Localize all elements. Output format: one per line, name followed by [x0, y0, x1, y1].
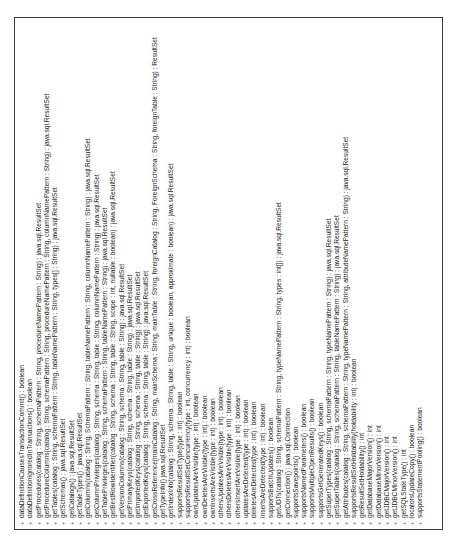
method-row: +updatesAreDetected(type : int) : boolea…: [242, 18, 250, 525]
method-row: +ownUpdatesAreVisible(type : int) : bool…: [192, 18, 200, 525]
method-signature: getCatalogs() : java.sql.ResultSet: [68, 420, 76, 518]
method-signature: supportsStatementPooling() : boolean: [416, 407, 424, 518]
method-signature: locatorsUpdateCopy() : boolean: [408, 425, 416, 518]
public-visibility-icon: +: [18, 518, 26, 525]
method-signature: supportsNamedParameters() : boolean: [300, 404, 308, 518]
method-signature: supportsMultipleOpenResults() : boolean: [308, 399, 316, 518]
method-signature: getResultSetHoldability() : int: [358, 433, 366, 518]
method-row: +getImportedKeys(catalog : String, schem…: [134, 18, 142, 525]
method-row: +getUDTs(catalog : String, schemaPattern…: [275, 18, 283, 525]
public-visibility-icon: +: [317, 518, 325, 525]
method-row: +getSQLStateType() : int: [400, 18, 408, 525]
method-signature: othersUpdatesAreVisible(type : int) : bo…: [217, 387, 225, 518]
public-visibility-icon: +: [292, 518, 300, 525]
method-row: +getJDBCMinorVersion() : int: [391, 18, 399, 525]
method-signature: getImportedKeys(catalog : String, schema…: [134, 271, 142, 518]
method-row: +othersInsertAreVisible(type : int) : bo…: [234, 18, 242, 525]
method-row: +supportsResultSetConcurrency(type : int…: [184, 18, 192, 525]
public-visibility-icon: +: [342, 518, 350, 525]
method-row: +getDatabaseMajorVersion() : int: [366, 18, 374, 525]
public-visibility-icon: +: [142, 518, 150, 525]
public-visibility-icon: +: [416, 518, 424, 525]
public-visibility-icon: +: [400, 518, 408, 525]
public-visibility-icon: +: [192, 518, 200, 525]
method-signature: supportsResultSetConcurrency(type : int,…: [184, 316, 192, 518]
method-signature: getProcedureColumns(catalog : String, sc…: [43, 94, 51, 518]
method-row: +getBestRowIdentifier(catalog : String, …: [109, 18, 117, 525]
method-row: +dataDefinitionCausesTransactionCommit()…: [18, 18, 26, 525]
method-signature: getDatabaseMinorVersion() : int: [375, 425, 383, 518]
method-row: +getSchemas() : java.sql.ResultSet: [59, 18, 67, 525]
public-visibility-icon: +: [209, 518, 217, 525]
public-visibility-icon: +: [43, 518, 51, 525]
method-signature: getJDBCMinorVersion() : int: [391, 436, 399, 518]
method-row: +supportsSavepoints() : boolean: [292, 18, 300, 525]
public-visibility-icon: +: [184, 518, 192, 525]
public-visibility-icon: +: [350, 518, 358, 525]
method-row: +getProcedures(catalog : String, schemaP…: [35, 18, 43, 525]
method-signature: getExportedKeys(catalog : String, schema…: [142, 271, 150, 518]
public-visibility-icon: +: [284, 518, 292, 525]
method-signature: getCrossReference(mainCatalog : String, …: [151, 37, 159, 518]
public-visibility-icon: +: [366, 518, 374, 525]
method-signature: getColumns(catalog : String, SchemaPatte…: [84, 138, 92, 518]
public-visibility-icon: +: [300, 518, 308, 525]
class-method-compartment: +dataDefinitionCausesTransactionCommit()…: [14, 17, 443, 530]
public-visibility-icon: +: [35, 518, 43, 525]
method-row: +getTablePrivileges(catalog : String, sc…: [101, 18, 109, 525]
method-signature: insertsAreDetected(type : int) : boolean: [259, 404, 267, 518]
public-visibility-icon: +: [333, 518, 341, 525]
method-row: +getTableTypes() : java.sql.ResultSet: [76, 18, 84, 525]
method-signature: dataDefinitionIgnoredInTransactions() : …: [26, 379, 34, 518]
public-visibility-icon: +: [93, 518, 101, 525]
method-row: +supportsResultSetHoldability(holdabilit…: [350, 18, 358, 525]
public-visibility-icon: +: [151, 518, 159, 525]
public-visibility-icon: +: [225, 518, 233, 525]
method-row: +insertsAreDetected(type : int) : boolea…: [259, 18, 267, 525]
method-row: +getCrossReference(mainCatalog : String,…: [151, 18, 159, 525]
method-row: +getColumnPrivileges(catalog : String, s…: [93, 18, 101, 525]
method-signature: dataDefinitionCausesTransactionCommit() …: [18, 365, 26, 518]
public-visibility-icon: +: [26, 518, 34, 525]
method-row: +getVersionColumns(catalog : String, sch…: [118, 18, 126, 525]
method-row: +getResultSetHoldability() : int: [358, 18, 366, 525]
method-list: +dataDefinitionCausesTransactionCommit()…: [15, 18, 425, 529]
method-signature: supportsResultSetHoldability(holdability…: [350, 359, 358, 518]
method-signature: getTablePrivileges(catalog : String, sch…: [101, 208, 109, 518]
method-row: +getProcedureColumns(catalog : String, s…: [43, 18, 51, 525]
method-signature: ownInsertsAreVisible(type : int) : boole…: [209, 398, 217, 518]
public-visibility-icon: +: [308, 518, 316, 525]
method-signature: othersDeletesAreVisible(type : int) : bo…: [225, 389, 233, 518]
method-row: +locatorsUpdateCopy() : boolean: [408, 18, 416, 525]
method-signature: getSuperTables(catalog : String, schemaP…: [333, 215, 341, 518]
method-row: +getExportedKeys(catalog : String, schem…: [142, 18, 150, 525]
method-signature: getUDTs(catalog : String, schemaPattern …: [275, 202, 283, 518]
public-visibility-icon: +: [375, 518, 383, 525]
method-signature: deletesAreDetected(type : int) : boolean: [250, 402, 258, 518]
method-signature: ownUpdatesAreVisible(type : int) : boole…: [192, 394, 200, 519]
public-visibility-icon: +: [51, 518, 59, 525]
method-row: +supportsMultipleOpenResults() : boolean: [308, 18, 316, 525]
method-signature: getTypeInfo() java.sql.ResultSet: [159, 425, 167, 518]
public-visibility-icon: +: [126, 518, 134, 525]
method-signature: supportsGetGeneratedKeys() : boolean: [317, 403, 325, 518]
method-signature: getAttributes(catalog : String, schemaPa…: [342, 137, 350, 518]
method-signature: updatesAreDetected(type : int) : boolean: [242, 400, 250, 518]
public-visibility-icon: +: [408, 518, 416, 525]
method-signature: getColumnPrivileges(catalog : String, sc…: [93, 174, 101, 518]
method-signature: supportsResultSetType(type : int) : bool…: [176, 392, 184, 518]
method-row: +ownInsertsAreVisible(type : int) : bool…: [209, 18, 217, 525]
method-row: +getTypeInfo() java.sql.ResultSet: [159, 18, 167, 525]
method-signature: getSQLStateType() : int: [400, 449, 408, 518]
method-row: +getSuperTables(catalog : String, schema…: [333, 18, 341, 525]
method-row: +dataDefinitionIgnoredInTransactions() :…: [26, 18, 34, 525]
method-row: +supportsBatchUpdates() : boolean: [267, 18, 275, 525]
public-visibility-icon: +: [267, 518, 275, 525]
public-visibility-icon: +: [242, 518, 250, 525]
method-signature: getTableTypes() : java.sql.ResultSet: [76, 413, 84, 518]
method-signature: getDatabaseMajorVersion() : int: [366, 425, 374, 518]
method-row: +supportsGetGeneratedKeys() : boolean: [317, 18, 325, 525]
public-visibility-icon: +: [217, 518, 225, 525]
public-visibility-icon: +: [118, 518, 126, 525]
method-row: +supportsStatementPooling() : boolean: [416, 18, 424, 525]
